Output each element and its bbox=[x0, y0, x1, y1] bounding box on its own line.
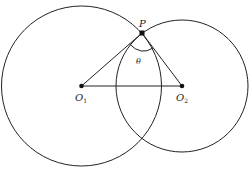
label-p: P bbox=[138, 18, 146, 29]
label-o2: O2 bbox=[176, 92, 188, 104]
segment-p-o2 bbox=[142, 33, 182, 86]
point-p bbox=[140, 31, 145, 36]
label-o1: O1 bbox=[75, 92, 87, 104]
point-o2 bbox=[180, 84, 185, 89]
segment-p-o1 bbox=[82, 33, 143, 86]
diagram-canvas: P θ O1 O2 bbox=[0, 0, 249, 179]
angle-theta-arc bbox=[130, 44, 154, 51]
label-theta: θ bbox=[136, 57, 141, 66]
point-o1 bbox=[79, 84, 84, 89]
